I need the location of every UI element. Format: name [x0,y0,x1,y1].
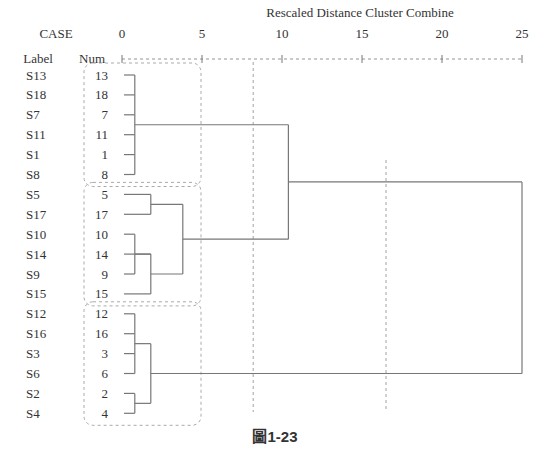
case-label: S17 [26,207,47,222]
chart-title: Rescaled Distance Cluster Combine [266,5,454,20]
case-label: S3 [26,346,40,361]
case-num: 11 [95,127,108,142]
case-label: S5 [26,187,40,202]
tick-label: 10 [276,26,289,41]
case-num: 3 [102,346,109,361]
header-case: CASE [39,26,72,41]
case-label: S4 [26,406,40,421]
case-num: 9 [102,267,109,282]
case-num: 2 [102,386,109,401]
dendrogram-chart: Rescaled Distance Cluster Combine CASE L… [0,0,550,452]
dendrogram-links [124,75,522,413]
tick-label: 15 [356,26,369,41]
case-num: 13 [95,68,108,83]
tick-label: 20 [436,26,449,41]
case-label: S11 [26,127,46,142]
case-num: 12 [95,306,108,321]
case-label: S18 [26,87,46,102]
cut-lines [253,62,386,412]
case-label: S8 [26,167,40,182]
case-num: 10 [95,227,108,242]
case-label: S9 [26,267,40,282]
case-label: S13 [26,68,46,83]
tick-label: 5 [199,26,206,41]
case-num: 14 [95,247,109,262]
case-num: 15 [95,286,108,301]
case-num: 18 [95,87,108,102]
case-num: 17 [95,207,109,222]
case-num: 7 [102,107,109,122]
tick-label: 0 [119,26,126,41]
case-label: S15 [26,286,46,301]
case-label: S14 [26,247,47,262]
case-label: S1 [26,147,40,162]
header-label: Label [23,51,53,66]
case-label: S16 [26,326,47,341]
tick-label: 25 [516,26,529,41]
leaf-labels: S1313S1818S77S1111S11S88S55S1717S1010S14… [26,68,109,421]
x-axis: 0510152025 [119,26,529,63]
case-num: 16 [95,326,109,341]
case-num: 6 [102,366,109,381]
case-num: 4 [102,406,109,421]
case-num: 1 [102,147,109,162]
header-num: Num [79,51,105,66]
case-num: 8 [102,167,109,182]
case-label: S2 [26,386,40,401]
case-label: S6 [26,366,40,381]
case-num: 5 [102,187,109,202]
case-label: S7 [26,107,40,122]
case-label: S10 [26,227,46,242]
case-label: S12 [26,306,46,321]
figure-caption: 圖1-23 [252,428,297,445]
